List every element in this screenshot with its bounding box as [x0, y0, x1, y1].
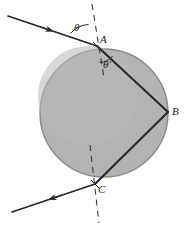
sphere-shading	[38, 46, 138, 146]
optics-diagram	[0, 0, 191, 229]
point-label-b: B	[172, 106, 179, 117]
point-label-a: A	[100, 34, 107, 45]
incident-ray-arrow	[40, 27, 50, 30]
point-label-c: C	[98, 184, 105, 195]
emergent-ray-arrow	[52, 195, 62, 198]
incident-ray	[8, 16, 97, 46]
angle-label-theta-prime: θ′	[103, 59, 111, 70]
figure-canvas: θ θ′ A B C	[0, 0, 191, 229]
angle-label-theta: θ	[74, 22, 79, 33]
